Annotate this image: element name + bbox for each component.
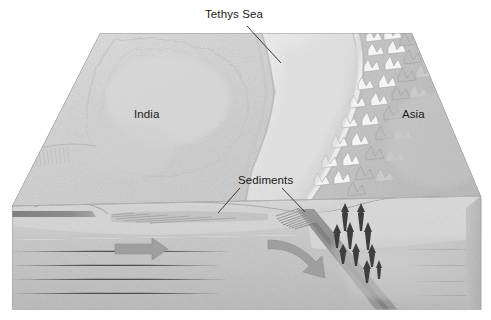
india-label: India <box>134 108 160 120</box>
asthenosphere-wash <box>330 239 481 300</box>
geology-block-diagram-svg: Tethys Sea India Asia Sediments <box>0 0 491 320</box>
right-face-plane <box>466 196 481 310</box>
block-front-cross-section <box>12 193 481 310</box>
asia-interior-shade <box>384 92 491 188</box>
oceanic-crust-band <box>12 211 96 217</box>
asia-label: Asia <box>402 108 425 120</box>
sediments-label: Sediments <box>238 174 293 186</box>
india-lowland-shade <box>80 122 176 178</box>
block-diagram-figure: Tethys Sea India Asia Sediments <box>0 0 491 320</box>
tethys-sea-label: Tethys Sea <box>205 8 263 20</box>
block-right-face <box>466 196 481 310</box>
